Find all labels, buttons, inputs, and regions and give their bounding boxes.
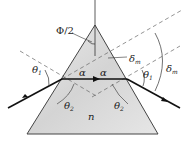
prism-diagram: Φ/2 θ1 θ1 α α θ2 θ2 δm δm n — [0, 0, 186, 141]
theta1-left-arc — [45, 70, 49, 86]
theta1-right-label: θ1 — [143, 69, 153, 81]
delta-outer-arc — [155, 33, 163, 91]
delta-inner-label: δm — [129, 53, 141, 65]
alpha-right-label: α — [100, 67, 107, 78]
half-apex-label: Φ/2 — [56, 25, 74, 36]
theta1-left-label: θ1 — [32, 64, 42, 76]
alpha-left-label: α — [79, 67, 86, 78]
index-label: n — [88, 111, 94, 122]
delta-outer-label: δm — [166, 63, 178, 75]
